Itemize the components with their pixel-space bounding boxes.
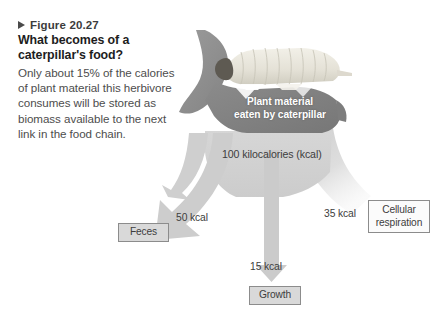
label-box-growth: Growth: [249, 286, 301, 305]
growth-value-label: 15 kcal: [250, 261, 282, 272]
diagram-artwork: [0, 0, 441, 311]
label-box-cellular-respiration: Cellular respiration: [368, 200, 430, 233]
figure-container: Figure 20.27 What becomes of a caterpill…: [0, 0, 441, 311]
leaf-caption-label: Plant material eaten by caterpillar: [214, 95, 346, 121]
caterpillar-tail-horn: [337, 70, 352, 76]
feces-value-label: 50 kcal: [176, 212, 208, 223]
total-input-label: 100 kilocalories (kcal): [222, 148, 322, 160]
label-box-feces: Feces: [118, 223, 169, 242]
caterpillar-illustration: [215, 48, 352, 90]
respiration-value-label: 35 kcal: [324, 208, 356, 219]
